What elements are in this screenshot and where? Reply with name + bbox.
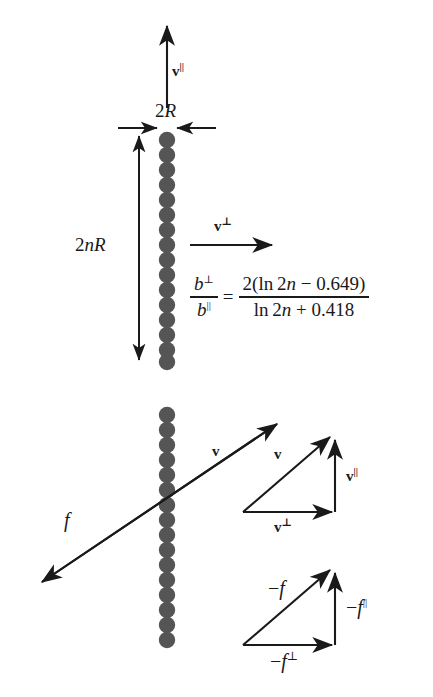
bead-chain-top <box>159 132 175 370</box>
equation-lhs-fraction: b⊥ b|| <box>190 272 218 322</box>
force-triangle-horizontal-label: −f⊥ <box>270 650 298 671</box>
velocity-triangle-horizontal-label: v⊥ <box>274 517 292 535</box>
velocity-label-bottom: v <box>212 444 220 459</box>
equation-rhs-denominator: ln 2n + 0.418 <box>250 298 359 322</box>
velocity-triangle-hypotenuse-label: v <box>274 447 282 462</box>
length-label-2nR: 2nR <box>75 235 106 254</box>
equation-lhs-numerator: b⊥ <box>190 272 218 296</box>
bead-chain-bottom <box>159 407 175 648</box>
force-triangle <box>243 570 335 645</box>
equation-equals-sign: = <box>223 286 234 308</box>
v-parallel-label-top: v|| <box>172 62 184 79</box>
force-triangle-hypotenuse-label: −f <box>268 578 285 598</box>
velocity-triangle <box>243 437 335 512</box>
equation-rhs-fraction: 2(ln 2n − 0.649) ln 2n + 0.418 <box>239 272 370 322</box>
diameter-label-2R: 2R <box>155 101 176 120</box>
diagram-vector-graphics <box>0 0 433 697</box>
force-label-bottom: f <box>64 510 70 530</box>
v-perp-label-top: v⊥ <box>214 216 232 234</box>
equation-lhs-denominator: b|| <box>193 298 215 322</box>
figure-canvas: v|| 2R 2nR v⊥ b⊥ b|| = 2(ln 2n − 0.649) … <box>0 0 433 697</box>
equation-rhs-numerator: 2(ln 2n − 0.649) <box>239 272 370 296</box>
diffusion-ratio-equation: b⊥ b|| = 2(ln 2n − 0.649) ln 2n + 0.418 <box>190 272 369 322</box>
force-triangle-vertical-label: −f|| <box>346 597 367 617</box>
velocity-triangle-vertical-label: v|| <box>346 467 358 484</box>
